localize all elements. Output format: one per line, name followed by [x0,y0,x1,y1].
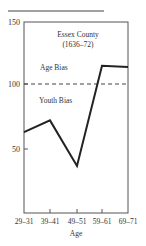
ytick-label-50: 50 [12,145,20,154]
data-series-line [24,66,128,166]
xtick-label-0: 29–31 [15,217,34,226]
xtick-label-3: 59–61 [93,217,112,226]
chart-subtitle: (1636–72) [62,40,94,49]
xtick-label-4: 69–71 [119,217,138,226]
xtick-label-2: 49–51 [68,217,87,226]
xtick-label-1: 39–41 [41,217,60,226]
chart-title: Essex County [57,30,99,39]
youth-bias-label: Youth Bias [39,96,72,105]
x-axis-label: Age [70,229,83,238]
ytick-label-100: 100 [8,80,20,89]
chart: 150 100 50 29–31 39–41 49–51 59–61 69–71… [0,0,146,246]
age-bias-label: Age Bias [40,63,68,72]
ytick-label-150: 150 [8,18,20,27]
plot-frame [24,22,128,213]
